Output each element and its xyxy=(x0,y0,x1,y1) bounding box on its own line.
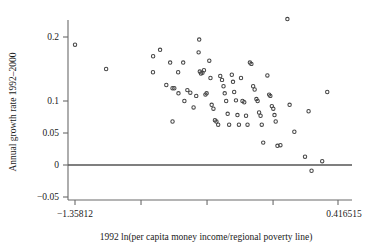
y-tick-label: 0.1 xyxy=(47,96,59,106)
y-tick-label: 0 xyxy=(54,160,59,170)
y-tick-label: 0.2 xyxy=(47,32,59,42)
chart-canvas: 0.20.10.050−0.05 −1.358120.416515 Annual… xyxy=(0,0,375,248)
y-axis-title: Annual growth rate 1992–2000 xyxy=(8,52,18,171)
x-max-label: 0.416515 xyxy=(326,209,362,219)
x-min-label: −1.35812 xyxy=(57,209,93,219)
y-tick-label: −0.05 xyxy=(37,192,59,202)
y-tick-label: 0.05 xyxy=(42,128,59,138)
x-axis-title: 1992 ln(per capita money income/regional… xyxy=(100,232,313,243)
scatter-plot-figure: 0.20.10.050−0.05 −1.358120.416515 Annual… xyxy=(0,0,375,248)
